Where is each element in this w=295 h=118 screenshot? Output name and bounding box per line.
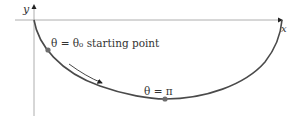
starting-point-dot — [45, 47, 50, 52]
minimum-point-dot — [162, 96, 167, 101]
x-axis — [15, 18, 283, 23]
minimum-point-label: θ = π — [144, 85, 173, 97]
diagram-canvas: y x θ = θ₀ starting point θ = π — [0, 0, 295, 118]
starting-point-label: θ = θ₀ starting point — [51, 37, 160, 49]
y-axis-label: y — [22, 3, 30, 16]
y-axis-arrow-icon — [32, 4, 37, 9]
x-axis-label: x — [281, 23, 287, 34]
